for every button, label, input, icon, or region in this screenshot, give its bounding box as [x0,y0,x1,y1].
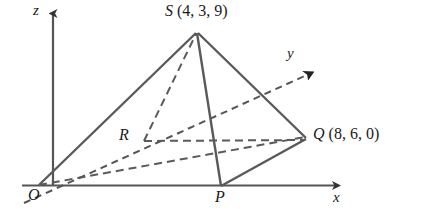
axis-label-z-text: z [33,2,39,18]
axis-label-y: y [287,46,294,61]
figure-canvas [0,0,434,217]
point-coords-s-text: (4, 3, 9) [177,2,228,19]
point-label-q: Q (8, 6, 0) [313,126,379,142]
point-label-p: P [215,189,225,205]
axis-label-x: x [333,190,340,205]
coordinate-figure: z y x O P R S (4, 3, 9) Q (8, 6, 0) [0,0,434,217]
point-label-origin-text: O [28,186,40,203]
point-label-s: S (4, 3, 9) [165,3,228,19]
point-label-r: R [119,127,129,143]
axis-label-y-text: y [287,45,294,61]
point-label-r-text: R [119,126,129,143]
edge-S-P [197,33,221,186]
axis-label-z: z [33,3,39,18]
point-label-s-text: S [165,2,173,19]
point-label-origin: O [28,187,40,203]
point-label-p-text: P [215,188,225,205]
edge-O-S [39,33,196,185]
edge-P-Q [221,139,306,186]
edge-R-S [144,34,196,141]
edge-R-Q [144,140,305,141]
axis-label-x-text: x [333,189,340,205]
point-label-q-text: Q [313,125,325,142]
point-coords-q-text: (8, 6, 0) [329,125,380,142]
